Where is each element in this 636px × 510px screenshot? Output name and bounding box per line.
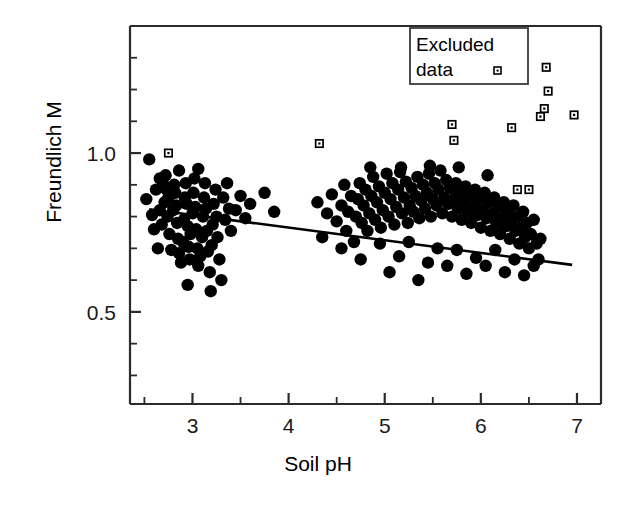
y-tick-label: 1.0 — [87, 142, 116, 165]
data-point-included — [388, 218, 400, 230]
data-point-excluded-core — [545, 66, 547, 68]
data-point-included — [425, 210, 437, 222]
data-point-included — [393, 250, 405, 262]
data-point-included — [268, 206, 280, 218]
data-point-excluded-core — [511, 127, 513, 129]
data-point-included — [258, 187, 270, 199]
data-point-included — [528, 214, 540, 226]
data-point-included — [173, 164, 185, 176]
y-axis-tick-labels: 0.51.0 — [87, 142, 116, 324]
data-point-excluded-core — [516, 188, 518, 190]
data-point-included — [402, 217, 414, 229]
x-axis-ticks — [144, 393, 577, 404]
data-point-included — [361, 225, 373, 237]
x-tick-label: 7 — [571, 414, 583, 437]
data-point-included — [453, 161, 465, 173]
data-point-included — [383, 266, 395, 278]
data-point-included — [499, 266, 511, 278]
data-point-included — [230, 204, 242, 216]
data-point-included — [395, 161, 407, 173]
y-tick-label: 0.5 — [87, 301, 116, 324]
included-data-points — [140, 153, 547, 297]
data-point-included — [140, 193, 152, 205]
data-point-included — [534, 233, 546, 245]
data-point-included — [412, 274, 424, 286]
data-point-excluded-core — [167, 152, 169, 154]
x-tick-label: 3 — [187, 414, 199, 437]
data-point-included — [244, 198, 256, 210]
data-point-included — [364, 161, 376, 173]
data-point-included — [181, 279, 193, 291]
data-point-included — [199, 177, 211, 189]
legend-box[interactable]: Excluded data — [410, 28, 528, 84]
data-point-included — [187, 187, 199, 199]
data-point-included — [424, 160, 436, 172]
data-point-included — [225, 225, 237, 237]
data-point-included — [213, 253, 225, 265]
scatter-plot-figure: Freundlich M Soil pH 0.51.0 34567 Exclud… — [0, 0, 636, 510]
data-point-excluded-core — [528, 188, 530, 190]
data-point-excluded-core — [573, 114, 575, 116]
y-axis-ticks — [130, 26, 141, 375]
plot-canvas: 0.51.0 34567 Excluded data — [0, 0, 636, 510]
data-point-included — [335, 242, 347, 254]
data-point-included — [508, 253, 520, 265]
data-point-excluded-core — [543, 107, 545, 109]
data-point-included — [143, 153, 155, 165]
data-point-included — [441, 260, 453, 272]
data-point-included — [311, 196, 323, 208]
data-point-included — [211, 231, 223, 243]
x-axis-tick-labels: 34567 — [187, 414, 583, 437]
data-point-excluded-core — [539, 115, 541, 117]
data-point-excluded-core — [451, 123, 453, 125]
data-point-included — [234, 190, 246, 202]
data-point-excluded-core — [318, 142, 320, 144]
data-point-included — [518, 269, 530, 281]
data-point-included — [479, 260, 491, 272]
data-point-excluded-core — [453, 139, 455, 141]
data-point-included — [326, 188, 338, 200]
x-tick-label: 4 — [283, 414, 295, 437]
data-point-included — [205, 285, 217, 297]
data-point-excluded-core — [547, 90, 549, 92]
data-point-included — [221, 177, 233, 189]
x-tick-label: 5 — [379, 414, 391, 437]
data-point-included — [354, 253, 366, 265]
legend-open-square-core-icon — [497, 70, 499, 72]
data-point-included — [204, 266, 216, 278]
legend-label-data: data — [416, 59, 453, 80]
legend-label-excluded: Excluded — [416, 34, 494, 55]
data-point-included — [217, 191, 229, 203]
data-point-included — [338, 179, 350, 191]
data-point-included — [460, 268, 472, 280]
data-point-included — [154, 172, 166, 184]
data-point-included — [321, 207, 333, 219]
data-point-included — [517, 206, 529, 218]
data-point-included — [330, 215, 342, 227]
data-point-included — [481, 169, 493, 181]
x-tick-label: 6 — [475, 414, 487, 437]
data-point-included — [192, 163, 204, 175]
data-point-included — [152, 242, 164, 254]
data-point-included — [375, 222, 387, 234]
data-point-included — [422, 256, 434, 268]
data-point-included — [215, 274, 227, 286]
